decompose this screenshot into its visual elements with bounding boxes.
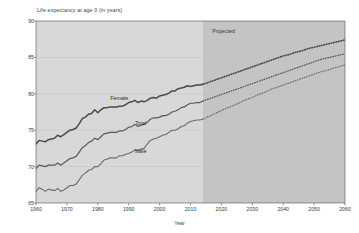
x-axis-tick-label: 2030: [247, 206, 259, 212]
x-axis-tick-label: 2000: [154, 206, 166, 212]
x-axis-label: Year: [0, 220, 359, 226]
projected-region-label: Projected: [212, 28, 235, 34]
series-label-male: Male: [135, 148, 147, 154]
x-axis-tick-label: 1990: [123, 206, 135, 212]
x-axis-tick-label: 1980: [92, 206, 104, 212]
chart-figure: Life expectancy at age 0 (in years) 6570…: [0, 0, 359, 233]
y-axis-tick-label: 90: [12, 18, 34, 24]
x-axis-tick-label: 2010: [185, 206, 197, 212]
series-label-total: Total: [135, 120, 146, 126]
x-axis-tick-label: 2020: [216, 206, 228, 212]
x-axis-tick-label: 1970: [61, 206, 73, 212]
x-axis-tick-label: 1960: [30, 206, 42, 212]
y-axis-tick-label: 85: [12, 54, 34, 60]
y-axis-ticks: 657075808590: [10, 0, 34, 233]
y-axis-tick-label: 70: [12, 164, 34, 170]
x-axis-tick-label: 2060: [339, 206, 351, 212]
series-label-female: Female: [110, 95, 128, 101]
y-axis-tick-label: 80: [12, 91, 34, 97]
chart-canvas: [0, 0, 359, 233]
y-axis-tick-label: 75: [12, 127, 34, 133]
x-axis-tick-label: 2040: [277, 206, 289, 212]
x-axis-tick-label: 2050: [308, 206, 320, 212]
